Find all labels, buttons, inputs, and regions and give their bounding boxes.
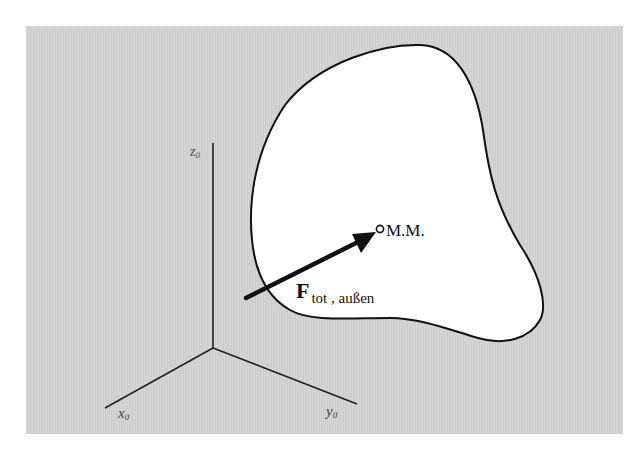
x-axis [105, 348, 213, 408]
center-of-mass-marker [376, 225, 383, 232]
z-axis-label: z0 [189, 144, 200, 160]
physics-diagram: z0 x0 y0 M.M. Ftot , außen [0, 0, 639, 452]
rigid-body-outline [251, 45, 543, 341]
diagram-canvas: z0 x0 y0 M.M. Ftot , außen [0, 0, 639, 452]
y-axis-label: y0 [324, 403, 338, 420]
x-axis-label: x0 [117, 405, 130, 422]
y-axis [213, 348, 357, 404]
center-of-mass-label: M.M. [386, 221, 425, 240]
